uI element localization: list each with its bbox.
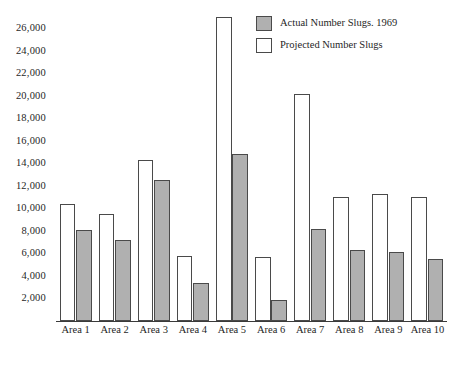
- plot-area: [56, 8, 447, 321]
- bar-actual: [115, 240, 131, 321]
- y-axis-tick-label: 2,000: [0, 293, 52, 304]
- bar-group: [56, 8, 95, 321]
- bar-group: [95, 8, 134, 321]
- y-axis-tick-label: 24,000: [0, 46, 52, 57]
- bar-projected: [60, 204, 76, 321]
- x-axis-tick-label: Area 9: [374, 324, 402, 337]
- chart-legend: Actual Number Slugs. 1969Projected Numbe…: [256, 16, 397, 53]
- bar-actual: [271, 300, 287, 321]
- x-axis-tick-label: Area 10: [411, 324, 445, 337]
- bar-actual: [389, 252, 405, 321]
- bar-projected: [216, 17, 232, 321]
- bar-actual: [154, 180, 170, 321]
- bar-chart: 2,0004,0006,0008,00010,00012,00014,00016…: [0, 0, 453, 367]
- y-axis-tick-label: 8,000: [0, 226, 52, 237]
- y-axis-tick-label: 14,000: [0, 158, 52, 169]
- x-axis-tick-label: Area 2: [101, 324, 129, 337]
- bar-group: [369, 8, 408, 321]
- y-axis-tick-label: 6,000: [0, 248, 52, 259]
- y-axis-tick-label: 20,000: [0, 91, 52, 102]
- x-axis: Area 1Area 2Area 3Area 4Area 5Area 6Area…: [56, 324, 447, 344]
- bar-actual: [311, 229, 327, 321]
- legend-item: Actual Number Slugs. 1969: [256, 16, 397, 31]
- y-axis: 2,0004,0006,0008,00010,00012,00014,00016…: [0, 0, 52, 367]
- bar-group: [330, 8, 369, 321]
- x-axis-tick-label: Area 7: [296, 324, 324, 337]
- bar-projected: [138, 160, 154, 321]
- y-axis-tick-label: 18,000: [0, 113, 52, 124]
- bar-group: [212, 8, 251, 321]
- x-axis-line: [56, 321, 447, 322]
- bar-projected: [372, 194, 388, 321]
- bar-projected: [99, 214, 115, 321]
- x-axis-tick-label: Area 1: [61, 324, 89, 337]
- bar-group: [291, 8, 330, 321]
- legend-label: Actual Number Slugs. 1969: [280, 18, 397, 29]
- bar-group: [134, 8, 173, 321]
- y-axis-tick-label: 12,000: [0, 181, 52, 192]
- legend-item: Projected Number Slugs: [256, 38, 397, 53]
- legend-label: Projected Number Slugs: [280, 40, 383, 51]
- y-axis-tick-label: 10,000: [0, 203, 52, 214]
- bar-projected: [177, 256, 193, 321]
- bar-group: [408, 8, 447, 321]
- x-axis-tick-label: Area 6: [257, 324, 285, 337]
- x-axis-tick-label: Area 5: [218, 324, 246, 337]
- bar-projected: [255, 257, 271, 321]
- bar-actual: [428, 259, 444, 321]
- bar-actual: [76, 230, 92, 321]
- bar-projected: [411, 197, 427, 321]
- x-axis-tick-label: Area 4: [179, 324, 207, 337]
- y-axis-tick-label: 4,000: [0, 271, 52, 282]
- y-axis-tick-label: 16,000: [0, 136, 52, 147]
- bar-group: [252, 8, 291, 321]
- y-axis-tick-label: 26,000: [0, 23, 52, 34]
- bar-projected: [333, 197, 349, 321]
- legend-swatch-actual: [256, 16, 272, 31]
- bar-actual: [232, 154, 248, 321]
- x-axis-tick-label: Area 3: [140, 324, 168, 337]
- y-axis-tick-label: 22,000: [0, 68, 52, 79]
- bar-actual: [350, 250, 366, 321]
- legend-swatch-projected: [256, 38, 272, 53]
- bar-actual: [193, 283, 209, 321]
- x-axis-tick-label: Area 8: [335, 324, 363, 337]
- bar-projected: [294, 94, 310, 321]
- bar-group: [173, 8, 212, 321]
